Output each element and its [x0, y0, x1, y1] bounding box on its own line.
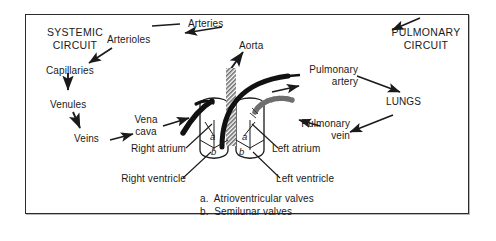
- arrow-pulmonary-artery-to-lungs: [357, 76, 400, 92]
- label-left-atrium: Left atrium: [272, 143, 320, 155]
- valve-marker-left-a: a: [242, 131, 247, 143]
- label-capillaries: Capillaries: [46, 65, 94, 77]
- label-arterioles: Arterioles: [107, 34, 150, 46]
- valve-marker-right-b: b: [211, 146, 216, 158]
- pulmonary-circuit-title: PULMONARY CIRCUIT: [382, 26, 470, 51]
- valve-marker-left-b: b: [239, 146, 244, 158]
- label-arteries: Arteries: [188, 18, 223, 30]
- valve-marker-right-a: a: [210, 131, 215, 143]
- label-pulmonary-vein: Pulmonary vein: [288, 118, 350, 141]
- systemic-circuit-title: SYSTEMIC CIRCUIT: [32, 26, 118, 51]
- label-veins: Veins: [74, 133, 99, 145]
- legend-line-b: b. Semilunar valves: [200, 205, 292, 218]
- label-aorta: Aorta: [239, 40, 263, 52]
- label-vena-cava: Vena cava: [128, 114, 164, 137]
- label-pulmonary-artery: Pulmonary artery: [296, 64, 358, 87]
- arrow-lungs-to-pulmonary-vein: [350, 115, 393, 132]
- label-venules: Venules: [50, 99, 86, 111]
- leader-line-right-ventricle: [183, 152, 211, 178]
- arrow-venules-to-veins: [73, 112, 80, 128]
- arteries-top-connector: [152, 24, 180, 26]
- label-left-ventricle: Left ventricle: [276, 173, 334, 185]
- label-lungs: LUNGS: [386, 96, 421, 108]
- legend-line-a: a. Atrioventricular valves: [200, 192, 314, 205]
- arrow-heart-to-pulmonary-artery: [272, 86, 299, 92]
- arrow-aorta-upward: [230, 52, 243, 70]
- diagram-root: SYSTEMIC CIRCUIT PULMONARY CIRCUIT Arter…: [0, 0, 496, 241]
- label-right-atrium: Right atrium: [110, 143, 186, 155]
- label-right-ventricle: Right ventricle: [98, 173, 186, 185]
